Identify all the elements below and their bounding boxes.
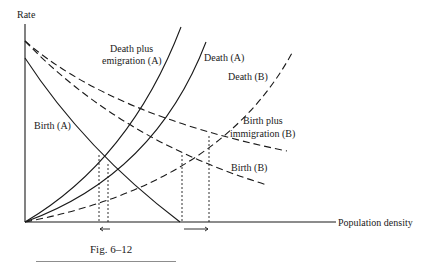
label-death-b: Death (B)	[228, 71, 268, 83]
y-axis-label: Rate	[17, 9, 36, 20]
figure-caption: Fig. 6–12	[90, 243, 132, 255]
label-death-plus-emigration-a-2: emigration (A)	[102, 55, 162, 67]
label-birth-plus-immigration-b-1: Birth plus	[243, 115, 283, 126]
label-birth-a: Birth (A)	[34, 120, 71, 132]
x-axis-label: Population density	[338, 217, 413, 228]
population-density-diagram: Rate Population density Birth (A) Death …	[0, 0, 427, 262]
label-death-plus-emigration-a-1: Death plus	[110, 43, 153, 54]
equilibrium-projections	[99, 136, 209, 222]
label-death-a: Death (A)	[204, 52, 244, 64]
arrow-left-icon	[100, 227, 110, 231]
label-birth-plus-immigration-b-2: immigration (B)	[230, 128, 295, 140]
curve-death-a	[25, 42, 206, 222]
arrow-right-icon	[184, 227, 208, 231]
label-birth-b: Birth (B)	[231, 162, 267, 174]
